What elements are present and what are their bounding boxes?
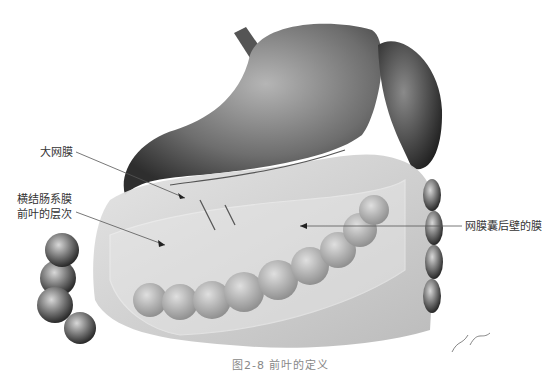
label-mesocolon-line1: 横结肠系膜 [17,192,72,207]
spleen [378,41,442,169]
label-greater-omentum: 大网膜 [40,145,73,160]
artist-signature [452,333,490,352]
figure-caption: 图2-8 前叶的定义 [232,356,329,372]
ascending-colon [37,233,96,344]
label-mesocolon-line2: 前叶的层次 [17,207,72,222]
label-omental-bursa-posterior: 网膜囊后壁的膜 [465,219,542,234]
